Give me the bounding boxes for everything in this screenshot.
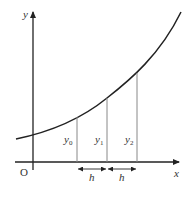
trapezoid-rule-diagram: y x O y0 y1 y2 h h — [0, 0, 194, 197]
ordinate-label-y1: y1 — [94, 133, 104, 147]
ordinate-label-y2: y2 — [124, 133, 134, 147]
curve — [16, 12, 181, 139]
y-axis-label: y — [22, 8, 28, 20]
interval-label-1: h — [89, 171, 95, 183]
x-axis-label: x — [173, 167, 179, 179]
interval-label-2: h — [119, 171, 125, 183]
ordinate-label-y0: y0 — [63, 133, 73, 147]
origin-label: O — [20, 166, 28, 178]
